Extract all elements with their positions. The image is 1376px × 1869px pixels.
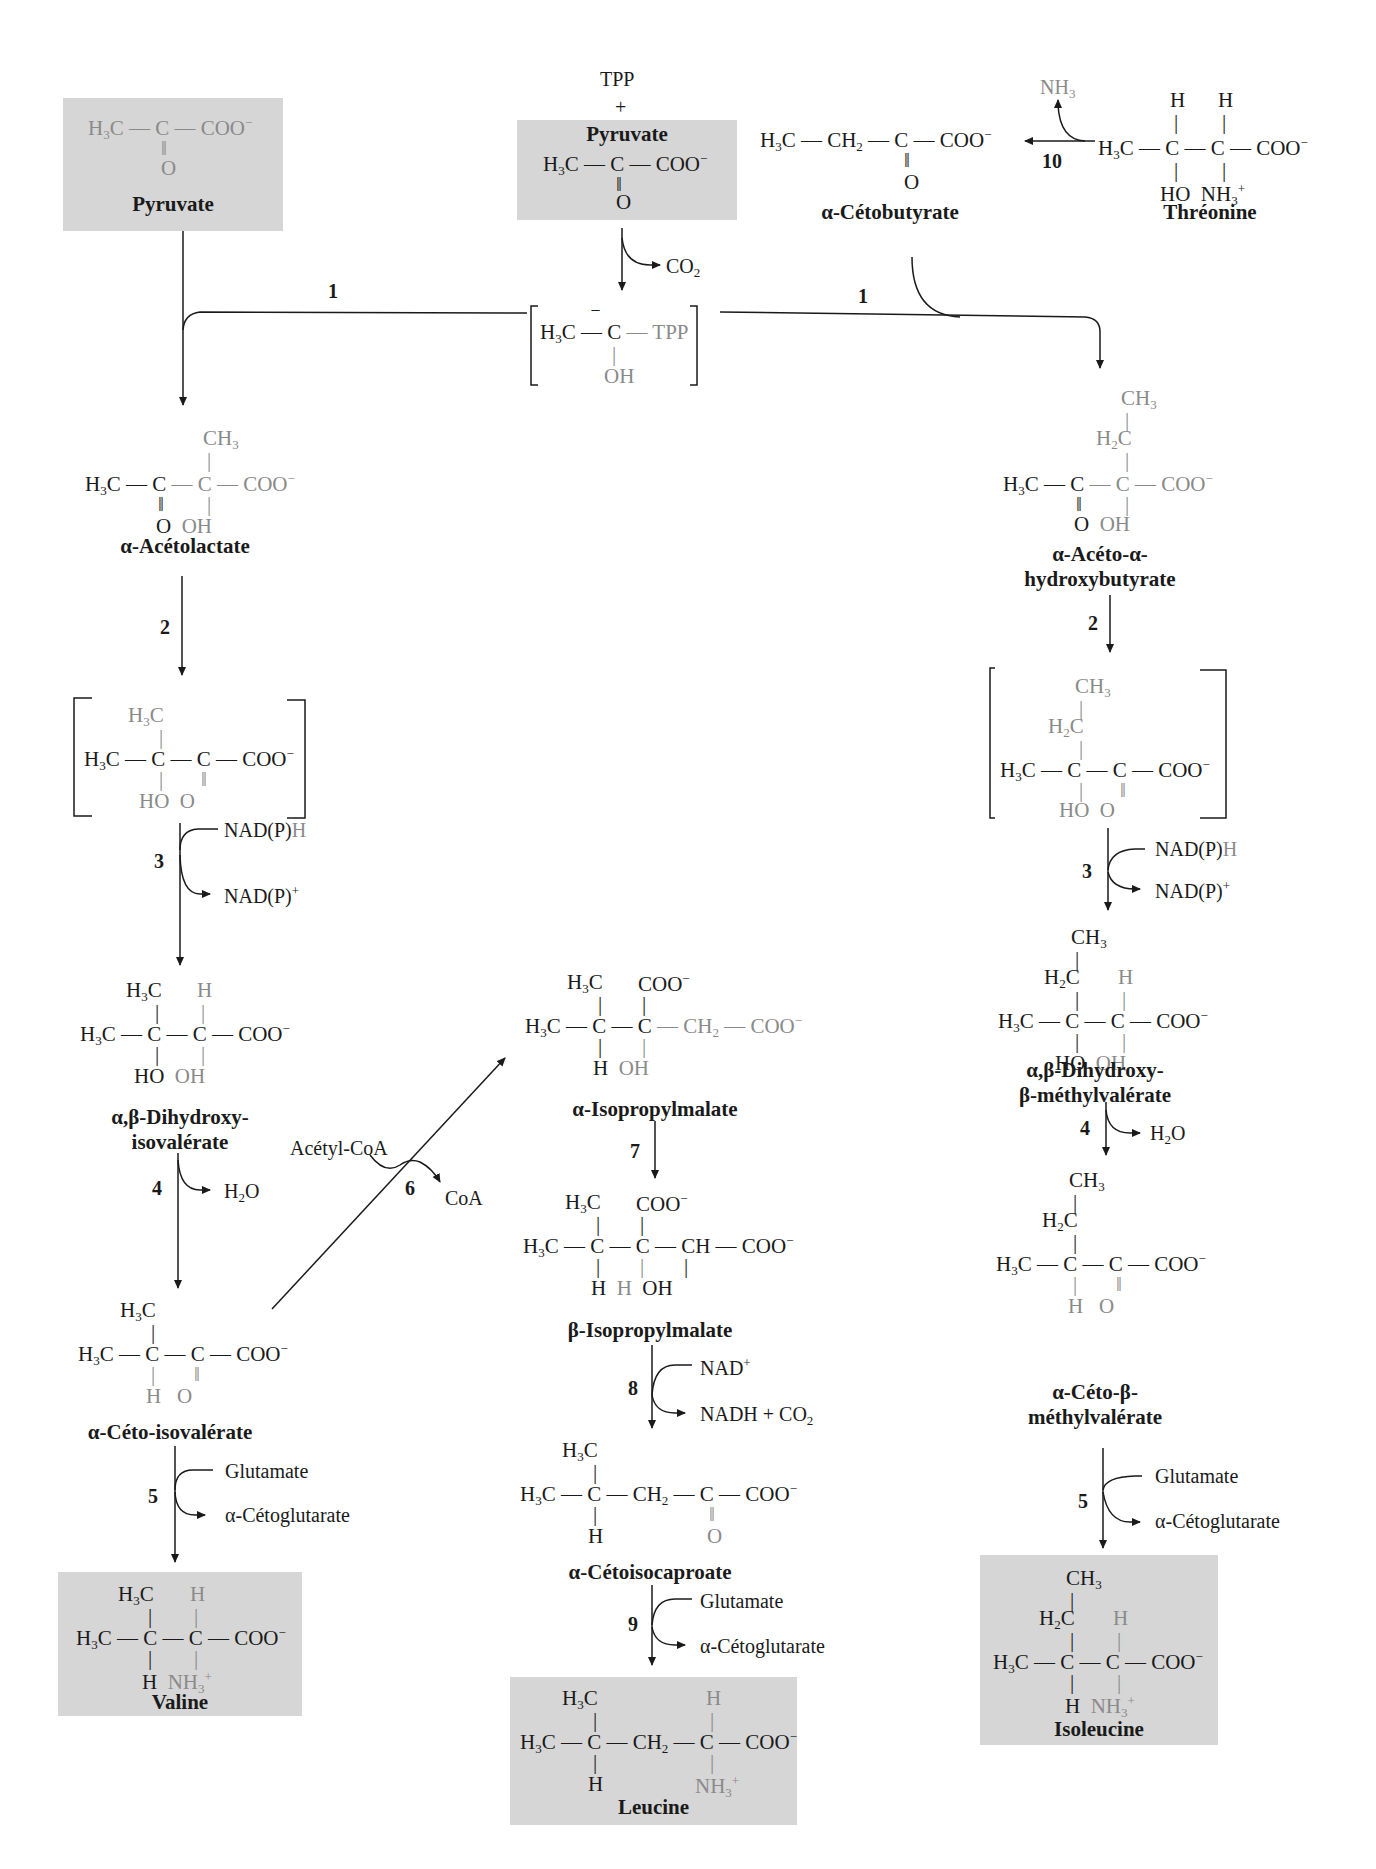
step-3-valine-label: 3 — [154, 850, 164, 873]
step-5-valine-label: 5 — [148, 1485, 158, 1508]
step-9-cetoglutarate: α-Cétoglutarate — [700, 1635, 825, 1658]
step-6-acetylcoa: Acétyl-CoA — [290, 1137, 388, 1160]
tpp-label: TPP — [600, 68, 634, 91]
step-5-valine-glutamate: Glutamate — [225, 1460, 308, 1483]
step-3-isoleucine-label: 3 — [1082, 860, 1092, 883]
step-8-nad: NAD+ — [700, 1355, 751, 1380]
dihydroxy-methylvalerate-label: α,β-Dihydroxy-β-méthylvalérate — [995, 1058, 1195, 1108]
cetobutyrate-structure: H3C — CH2 — C — COO− ‖ O — [760, 128, 771, 212]
step-3-isoleucine-nadp: NAD(P)+ — [1155, 878, 1230, 903]
co2-label: CO2 — [666, 255, 700, 281]
step-8-nadh-co2: NADH + CO2 — [700, 1403, 813, 1429]
cetoisocaproate-label: α-Cétoisocaproate — [540, 1560, 760, 1585]
nh3-label: NH3 — [1040, 76, 1075, 102]
threonine-label: Thréonine — [1110, 200, 1310, 225]
step-6-coa: CoA — [445, 1187, 483, 1210]
step-10-label: 10 — [1042, 150, 1062, 173]
step-2-isoleucine-label: 2 — [1088, 612, 1098, 635]
step-9-glutamate: Glutamate — [700, 1590, 783, 1613]
isoleucine-label: Isoleucine — [980, 1717, 1218, 1742]
alpha-isopropylmalate-structure: H3C COO− | | H3C — C — C — CH2 — COO− | … — [525, 972, 536, 1161]
cetoisocaproate-structure: H3C | H3C — C — CH2 — C — COO− | ‖ H O — [520, 1440, 531, 1608]
pyruvate-center-label: Pyruvate — [517, 122, 737, 147]
step-5-valine-cetoglutarate: α-Cétoglutarate — [225, 1504, 350, 1527]
beta-isopropylmalate-label: β-Isopropylmalate — [540, 1318, 760, 1343]
leucine-structure: H3C H | | H3C — C — CH2 — C — COO− | | H… — [520, 1688, 531, 1869]
step-5-isoleucine-cetoglutarate: α-Cétoglutarate — [1155, 1510, 1280, 1533]
alpha-isopropylmalate-label: α-Isopropylmalate — [545, 1097, 765, 1122]
step-6-label: 6 — [405, 1177, 415, 1200]
step-5-isoleucine-glutamate: Glutamate — [1155, 1465, 1238, 1488]
beta-isopropylmalate-structure: H3C COO− | | H3C — C — C — CH — COO− | |… — [523, 1192, 534, 1402]
step-4-isoleucine-label: 4 — [1080, 1117, 1090, 1140]
step-3-isoleucine-nadph: NAD(P)H — [1155, 838, 1237, 861]
valine-bracket-intermediate-structure: H3C | H3C — C — C — COO− | ‖ HO O — [84, 705, 95, 852]
step-4-isoleucine-h2o: H2O — [1150, 1122, 1185, 1148]
threonine-structure: H H | | H3C — C — C — COO− | | HO NH3+ — [1098, 90, 1109, 279]
step-3-valine-nadph: NAD(P)H — [224, 819, 306, 842]
step-4-valine-label: 4 — [152, 1177, 162, 1200]
plus-sign: + — [615, 96, 626, 119]
ceto-isovalerate-label: α-Céto-isovalérate — [70, 1420, 270, 1445]
isoleucine-bracket-intermediate-structure: CH3 | H2C | H3C — C — C — COO− | ‖ HO O — [1000, 676, 1011, 865]
step-8-label: 8 — [628, 1377, 638, 1400]
ceto-methylvalerate-label: α-Céto-β-méthylvalérate — [995, 1380, 1195, 1430]
dihydroxy-isovalerate-label: α,β-Dihydroxy-isovalérate — [80, 1105, 280, 1155]
step-9-label: 9 — [628, 1613, 638, 1636]
aceto-hydroxybutyrate-label: α-Acéto-α-hydroxybutyrate — [1000, 542, 1200, 592]
step-1-right-label: 1 — [858, 285, 868, 308]
step-4-valine-h2o: H2O — [224, 1180, 259, 1206]
tpp-intermediate-structure: ‾ H3C — C — TPP | OH — [540, 310, 551, 415]
pyruvate-left-structure: H3C — C — COO− ‖ O — [88, 116, 99, 200]
acetolactate-label: α-Acétolactate — [85, 534, 285, 559]
step-7-label: 7 — [630, 1140, 640, 1163]
step-2-valine-label: 2 — [160, 616, 170, 639]
leucine-label: Leucine — [510, 1795, 797, 1820]
step-1-left-label: 1 — [328, 280, 338, 303]
step-5-isoleucine-label: 5 — [1078, 1490, 1088, 1513]
step-3-valine-nadp: NAD(P)+ — [224, 883, 299, 908]
pyruvate-center-structure: H3C — C — COO− ‖ O — [543, 152, 554, 236]
cetobutyrate-label: α-Cétobutyrate — [790, 200, 990, 225]
isoleucine-structure: CH3 | H2C H | | H3C — C — C — COO− | | H… — [993, 1568, 1004, 1799]
ceto-methylvalerate-structure: CH3 | H2C | H3C — C — C — COO− | ‖ H O — [996, 1170, 1007, 1359]
dihydroxy-methylvalerate-structure: CH3 | H2C H | | H3C — C — C — COO− | | H… — [998, 927, 1009, 1158]
valine-label: Valine — [58, 1690, 302, 1715]
pyruvate-left-label: Pyruvate — [63, 192, 283, 217]
valine-structure: H3C H | | H3C — C — C — COO− | | H NH3+ — [76, 1584, 87, 1773]
